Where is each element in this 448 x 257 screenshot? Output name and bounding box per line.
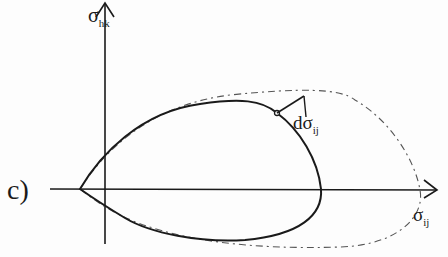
subsequent-yield-surface	[80, 90, 421, 247]
yield-surface-diagram: σhk dσij σij c)	[0, 0, 448, 257]
current-yield-surface	[80, 101, 321, 241]
diagram-canvas	[0, 0, 448, 257]
y-axis-symbol: σ	[88, 4, 99, 26]
x-axis-symbol: σ	[413, 204, 423, 225]
vector-label: dσij	[293, 113, 319, 132]
x-axis-subscript: ij	[423, 216, 429, 228]
x-axis-label: σij	[413, 205, 429, 224]
y-axis-label: σhk	[88, 5, 110, 25]
y-axis-subscript: hk	[99, 17, 110, 29]
x-axis-line	[50, 189, 437, 190]
stress-increment-vector	[277, 96, 304, 113]
x-axis-arrowhead	[424, 180, 437, 198]
panel-label: c)	[7, 176, 29, 204]
vector-label-symbol: dσ	[293, 112, 313, 133]
vector-label-subscript: ij	[313, 124, 319, 136]
